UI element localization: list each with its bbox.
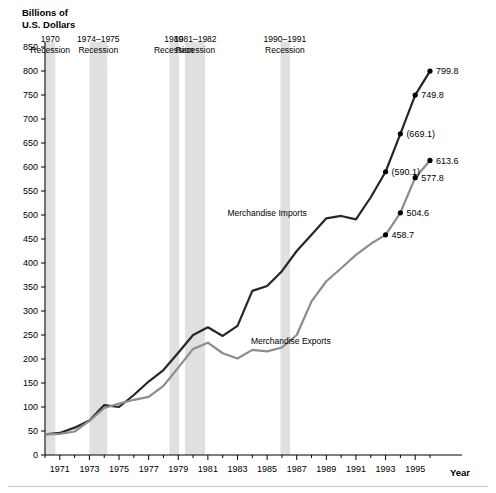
x-axis-tick-label: 1971 xyxy=(50,464,70,474)
data-point-value-label: 458.7 xyxy=(392,230,415,240)
x-axis-tick-label: 1991 xyxy=(346,464,366,474)
recession-band-label-year: 1990–1991 xyxy=(264,34,307,44)
x-axis-title: Year xyxy=(450,467,470,478)
data-point-marker xyxy=(383,232,388,237)
y-axis-tick-label: 0 xyxy=(33,450,38,460)
x-axis-tick-label: 1993 xyxy=(376,464,396,474)
y-axis-tick-label: 50 xyxy=(28,426,38,436)
recession-band-label-year: 1974–1975 xyxy=(77,34,120,44)
y-axis-tick-label: 800 xyxy=(23,66,38,76)
data-point-marker xyxy=(427,68,432,73)
data-point-marker xyxy=(427,158,432,163)
recession-band xyxy=(169,42,179,455)
recession-band-label-text: Recession xyxy=(265,45,305,55)
y-axis-title-line1: Billions of xyxy=(22,7,69,18)
recession-band-label-year: 1970 xyxy=(41,34,60,44)
data-point-value-label: 577.8 xyxy=(421,173,444,183)
y-axis-tick-label: 450 xyxy=(23,234,38,244)
data-point-marker xyxy=(398,210,403,215)
x-axis-tick-label: 1987 xyxy=(287,464,307,474)
x-axis-tick-label: 1989 xyxy=(316,464,336,474)
x-axis-tick-label: 1977 xyxy=(139,464,159,474)
recession-band xyxy=(89,42,107,455)
x-axis-tick-label: 1975 xyxy=(109,464,129,474)
x-axis-tick-label: 1981 xyxy=(198,464,218,474)
y-axis-tick-label: 300 xyxy=(23,306,38,316)
y-axis-tick-label: 600 xyxy=(23,162,38,172)
y-axis-tick-label: 750 xyxy=(23,90,38,100)
recession-band-label-text: Recession xyxy=(175,45,215,55)
y-axis-tick-label: 650 xyxy=(23,138,38,148)
recession-band xyxy=(185,42,205,455)
recession-band-label-text: Recession xyxy=(30,45,70,55)
y-axis-tick-label: 550 xyxy=(23,186,38,196)
data-point-value-label: (669.1) xyxy=(406,129,435,139)
x-axis-tick-label: 1979 xyxy=(168,464,188,474)
recession-band xyxy=(44,42,55,455)
y-axis-tick-label: 150 xyxy=(23,378,38,388)
chart-background xyxy=(0,0,496,493)
data-point-marker xyxy=(398,131,403,136)
y-axis-tick-label: 100 xyxy=(23,402,38,412)
y-axis-tick-label: 250 xyxy=(23,330,38,340)
data-point-value-label: 749.8 xyxy=(421,90,444,100)
chart-container: 0501001502002503003504004505005506006507… xyxy=(0,0,496,493)
y-axis-tick-label: 400 xyxy=(23,258,38,268)
recession-band-label-text: Recession xyxy=(78,45,118,55)
x-axis-tick-label: 1985 xyxy=(257,464,277,474)
data-point-value-label: (590.1) xyxy=(392,167,421,177)
data-point-value-label: 613.6 xyxy=(436,156,459,166)
recession-band-label-year: 1981–1982 xyxy=(174,34,217,44)
data-point-value-label: 504.6 xyxy=(406,208,429,218)
y-axis-tick-label: 350 xyxy=(23,282,38,292)
y-axis-title-line2: U.S. Dollars xyxy=(22,19,75,30)
recession-band xyxy=(280,42,290,455)
x-axis-tick-label: 1983 xyxy=(227,464,247,474)
y-axis-tick-label: 500 xyxy=(23,210,38,220)
x-axis-tick-label: 1995 xyxy=(405,464,425,474)
data-point-marker xyxy=(383,169,388,174)
series-inline-label: Merchandise Exports xyxy=(251,336,331,346)
series-inline-label: Merchandise Imports xyxy=(227,208,306,218)
y-axis-tick-label: 200 xyxy=(23,354,38,364)
page-divider xyxy=(8,486,488,487)
data-point-value-label: 799.8 xyxy=(436,66,459,76)
x-axis-tick-label: 1973 xyxy=(79,464,99,474)
y-axis-tick-label: 700 xyxy=(23,114,38,124)
data-point-marker xyxy=(413,92,418,97)
import-export-line-chart: 0501001502002503003504004505005506006507… xyxy=(0,0,496,493)
